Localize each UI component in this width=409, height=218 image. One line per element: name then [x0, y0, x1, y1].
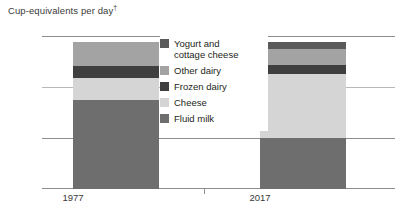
legend-label-yogurt: Yogurt and cottage cheese [174, 38, 238, 60]
bar-segment-2017-yogurt-and-cottage-cheese[interactable] [260, 42, 346, 49]
legend-label-yogurt-line1: Yogurt and [174, 38, 220, 49]
legend-label-frozen-dairy: Frozen dairy [174, 81, 227, 92]
legend-label-fluid-milk: Fluid milk [174, 113, 214, 124]
bar-segment-1977-fluid-milk[interactable] [73, 100, 159, 189]
footnote-marker: † [113, 4, 117, 11]
y-axis-title: Cup-equivalents per day† [8, 5, 117, 16]
legend-label-yogurt-line2: cottage cheese [174, 49, 238, 60]
bar-segment-1977-other-dairy[interactable] [73, 42, 159, 65]
legend-swatch-icon-fluid-milk [160, 114, 169, 123]
legend-item-yogurt-and-cottage-cheese[interactable]: Yogurt and cottage cheese [160, 38, 268, 60]
legend-swatch-icon-other-dairy [160, 66, 169, 75]
bar-segment-1977-frozen-dairy[interactable] [73, 66, 159, 78]
legend-item-frozen-dairy[interactable]: Frozen dairy [160, 81, 268, 92]
legend-label-cheese: Cheese [174, 97, 207, 108]
y-axis-title-text: Cup-equivalents per day [8, 5, 113, 16]
x-axis-center-tick [204, 189, 205, 194]
legend-label-other-dairy: Other dairy [174, 65, 221, 76]
legend-swatch-icon-frozen-dairy [160, 82, 169, 91]
bar-1977[interactable] [73, 42, 159, 189]
bar-segment-2017-fluid-milk[interactable] [260, 138, 346, 189]
legend-item-fluid-milk[interactable]: Fluid milk [160, 113, 268, 124]
stacked-bar-chart: Cup-equivalents per day† 1.5 1.0 0.5 0.0… [0, 0, 409, 218]
bar-segment-2017-other-dairy[interactable] [260, 49, 346, 64]
x-tick-label-1977: 1977 [33, 192, 113, 203]
bar-segment-2017-cheese[interactable] [260, 74, 346, 138]
chart-legend: Yogurt and cottage cheese Other dairy Fr… [160, 36, 268, 131]
bar-segment-2017-frozen-dairy[interactable] [260, 65, 346, 74]
bar-segment-1977-cheese[interactable] [73, 78, 159, 100]
bar-2017[interactable] [260, 42, 346, 189]
legend-swatch-icon-cheese [160, 98, 169, 107]
legend-item-cheese[interactable]: Cheese [160, 97, 268, 108]
legend-item-other-dairy[interactable]: Other dairy [160, 65, 268, 76]
legend-swatch-icon-yogurt [160, 39, 169, 48]
x-tick-label-2017: 2017 [220, 192, 300, 203]
